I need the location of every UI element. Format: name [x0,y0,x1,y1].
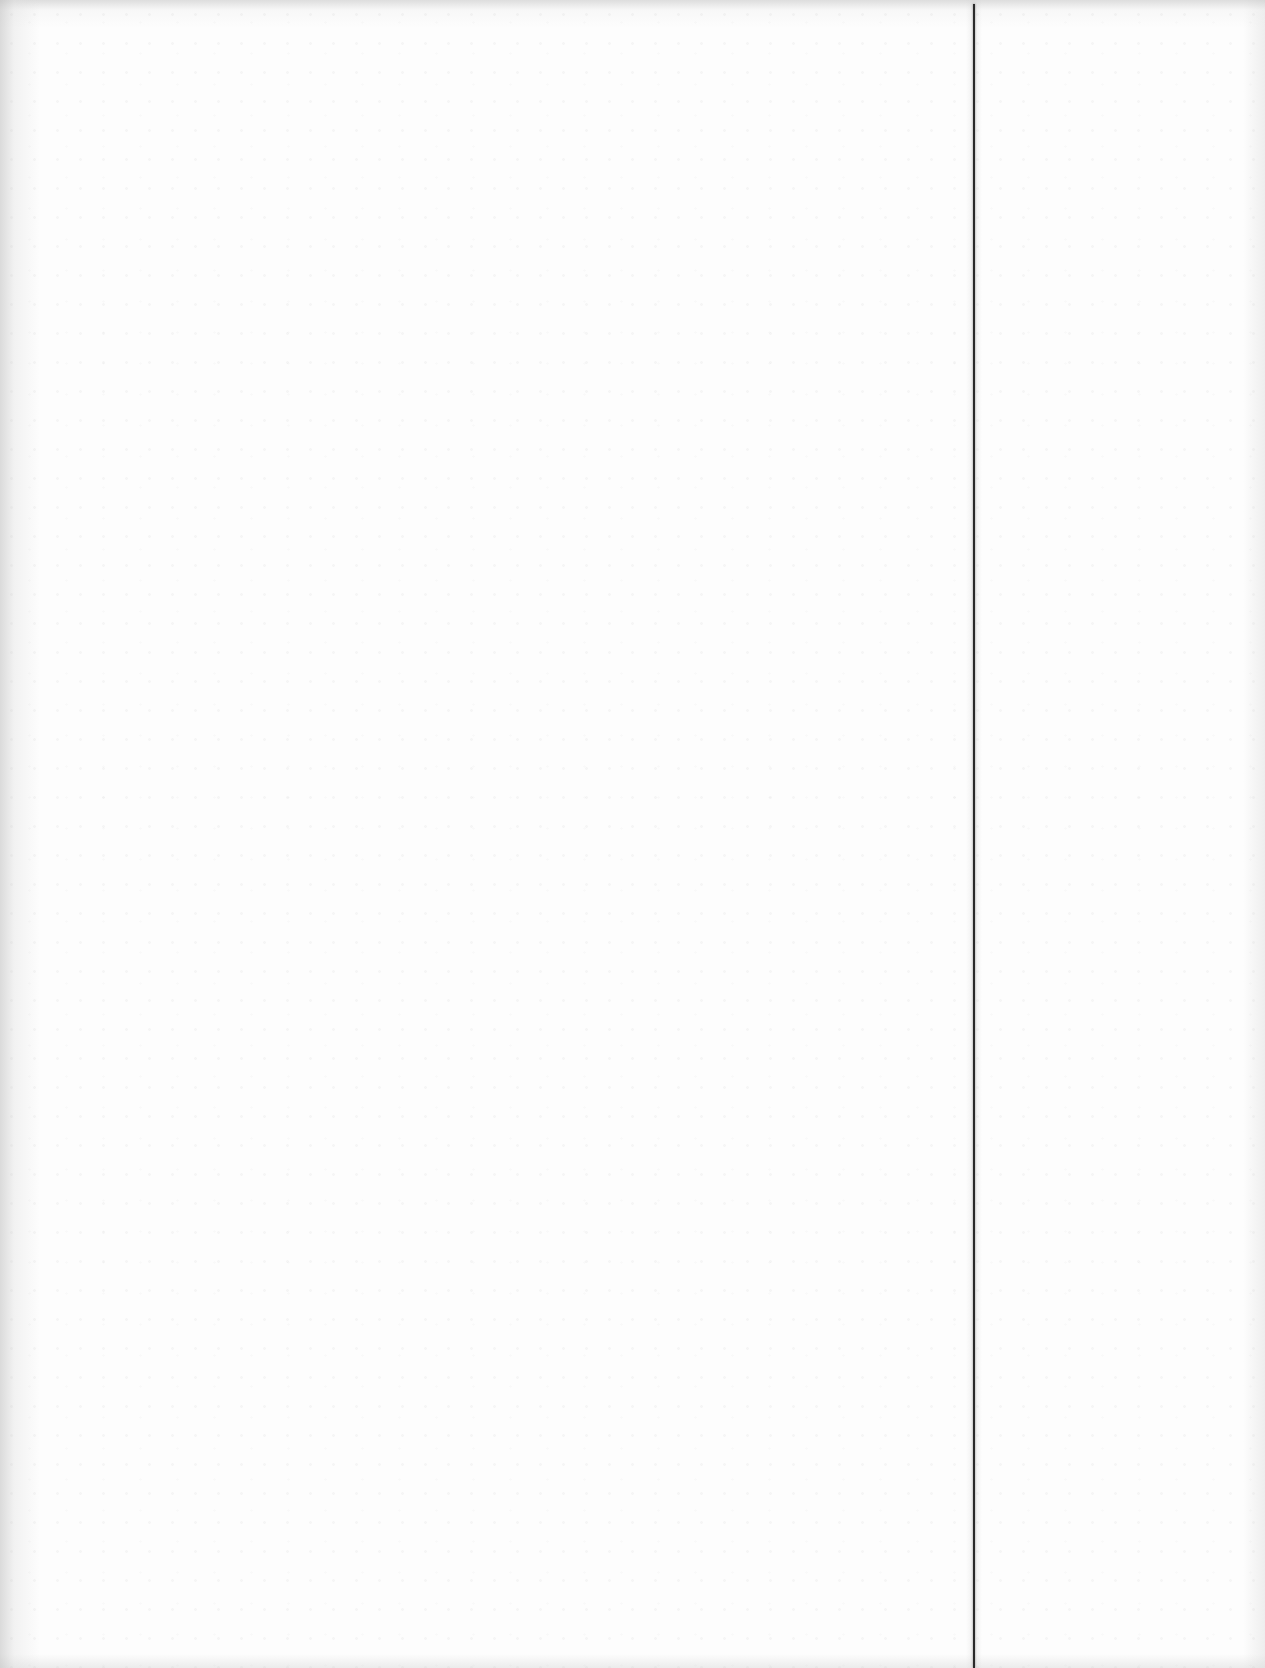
right-blank-panel [975,0,1265,1668]
scanned-page [0,0,1265,1668]
left-blank-panel [0,0,973,1668]
